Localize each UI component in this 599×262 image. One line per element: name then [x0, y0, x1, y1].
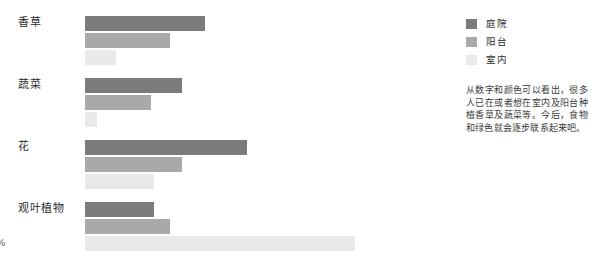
legend-item-label: 庭院	[486, 19, 507, 29]
bar-rect	[85, 174, 154, 189]
bar-rect	[85, 202, 154, 217]
infographic-page: 香草31%22%8%蔬菜25%17%3%花42%25%18%观叶植物18%22%…	[0, 0, 599, 262]
bar-rect	[85, 16, 205, 31]
bar-rect	[85, 236, 355, 251]
bar-rect	[85, 157, 182, 172]
bar-rect	[85, 219, 170, 234]
bar-rect	[85, 50, 116, 65]
bar-group-label: 蔬菜	[18, 78, 80, 92]
legend-item-label: 室内	[486, 55, 507, 65]
bar-rect	[85, 78, 182, 93]
bar-rect	[85, 33, 170, 48]
bar-chart: 香草31%22%8%蔬菜25%17%3%花42%25%18%观叶植物18%22%…	[0, 0, 430, 262]
bar-rect	[85, 112, 97, 127]
legend-item[interactable]: 阳台	[466, 35, 507, 49]
chart-legend: 庭院阳台室内	[466, 17, 507, 71]
legend-swatch-icon	[466, 55, 477, 65]
commentary-note: 从数字和颜色可以看出，很多人已在或者想在室内及阳台种植香草及蔬菜等。今后，食物和…	[466, 84, 588, 134]
legend-item[interactable]: 庭院	[466, 17, 507, 31]
bar-group-label: 香草	[18, 16, 80, 30]
legend-swatch-icon	[466, 19, 477, 29]
legend-item[interactable]: 室内	[466, 53, 507, 67]
legend-item-label: 阳台	[486, 37, 507, 47]
bar-value-label: 70%	[0, 236, 5, 251]
legend-swatch-icon	[466, 37, 477, 47]
bar-rect	[85, 140, 247, 155]
bar-rect	[85, 95, 151, 110]
bar-group-label: 花	[18, 140, 80, 154]
bar-group-label: 观叶植物	[18, 202, 80, 216]
